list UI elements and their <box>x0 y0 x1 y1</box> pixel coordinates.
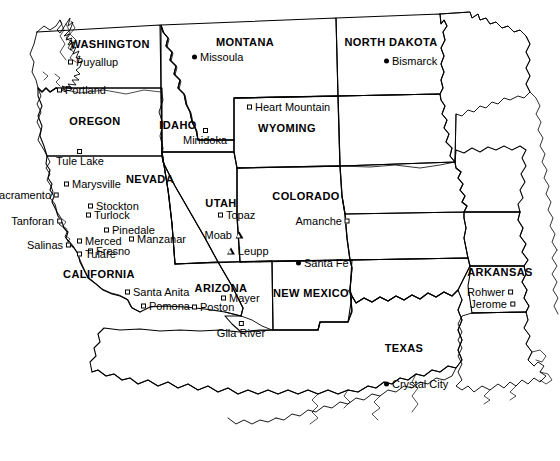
place-label-jerome: Jerome <box>470 299 507 310</box>
circle-marker-icon <box>296 261 301 266</box>
place-marker-manzanar[interactable]: Manzanar <box>129 234 186 245</box>
square-marker-icon <box>77 239 82 244</box>
state-outline-nebraska <box>340 162 467 214</box>
square-marker-icon <box>508 290 513 295</box>
circle-marker-icon <box>192 55 197 60</box>
place-label-tulare: Tulare <box>85 249 116 260</box>
place-marker-topaz[interactable]: Topaz <box>218 210 255 221</box>
square-marker-icon <box>57 88 62 93</box>
square-marker-icon <box>125 290 130 295</box>
place-marker-puyallup[interactable]: Puyallup <box>68 57 118 68</box>
place-marker-turlock[interactable]: Turlock <box>86 210 130 221</box>
state-outline-minnesota <box>440 12 530 162</box>
place-marker-portland[interactable]: Portland <box>57 85 106 96</box>
triangle-marker-icon <box>235 232 243 239</box>
map-outlines <box>0 0 560 461</box>
state-label-washington: WASHINGTON <box>70 38 150 50</box>
state-label-texas: TEXAS <box>385 342 424 354</box>
place-label-santa-anita: Santa Anita <box>133 287 189 298</box>
state-label-utah: UTAH <box>205 197 236 209</box>
state-outline-wisconsin <box>530 92 557 250</box>
place-marker-bismarck[interactable]: Bismarck <box>384 56 437 67</box>
square-marker-icon <box>345 219 350 224</box>
place-marker-santa-anita[interactable]: Santa Anita <box>125 287 189 298</box>
square-marker-icon <box>218 213 223 218</box>
state-label-oregon: OREGON <box>69 115 120 127</box>
place-marker-salinas[interactable]: Salinas <box>27 240 71 251</box>
square-marker-icon <box>68 60 73 65</box>
place-label-marysville: Marysville <box>72 179 121 190</box>
state-outline-missouri <box>464 212 528 266</box>
place-marker-pomona[interactable]: Pomona <box>141 301 190 312</box>
state-outline-iowa <box>455 146 526 212</box>
place-marker-poston[interactable]: Poston <box>192 302 234 313</box>
place-marker-sacramento[interactable]: Sacramento <box>0 190 59 201</box>
state-outline-kansas <box>345 212 468 260</box>
state-label-arkansas: ARKANSAS <box>467 266 533 278</box>
square-marker-icon <box>86 213 91 218</box>
place-label-portland: Portland <box>65 85 106 96</box>
place-label-puyallup: Puyallup <box>76 57 118 68</box>
square-marker-icon <box>192 305 197 310</box>
map-container: WASHINGTONOREGONIDAHOMONTANANORTH DAKOTA… <box>0 0 560 461</box>
place-marker-santa-fe[interactable]: Santa Fe <box>296 258 349 269</box>
square-marker-icon <box>88 204 93 209</box>
place-marker-missoula[interactable]: Missoula <box>192 52 243 63</box>
square-marker-icon <box>66 243 71 248</box>
place-marker-tanforan[interactable]: Tanforan <box>11 216 62 227</box>
place-label-santa-fe: Santa Fe <box>304 258 349 269</box>
place-marker-heart-mountain[interactable]: Heart Mountain <box>247 102 330 113</box>
state-label-nevada: NEVADA <box>126 173 174 185</box>
place-label-poston: Poston <box>200 302 234 313</box>
place-marker-leupp[interactable]: Leupp <box>227 246 269 257</box>
place-label-moab: Moab <box>204 230 232 241</box>
place-marker-rohwer[interactable]: Rohwer <box>467 287 513 298</box>
place-label-minidoka: Minidoka <box>183 135 227 146</box>
place-label-leupp: Leupp <box>238 246 269 257</box>
state-label-montana: MONTANA <box>216 36 274 48</box>
place-label-salinas: Salinas <box>27 240 63 251</box>
state-label-new-mexico: NEW MEXICO <box>273 287 349 299</box>
square-marker-icon <box>510 302 515 307</box>
state-label-north-dakota: NORTH DAKOTA <box>344 36 437 48</box>
state-label-wyoming: WYOMING <box>258 122 316 134</box>
place-marker-crystal-city[interactable]: Crystal City <box>384 379 448 390</box>
square-marker-icon <box>77 252 82 257</box>
place-marker-marysville[interactable]: Marysville <box>64 179 121 190</box>
place-label-missoula: Missoula <box>200 52 243 63</box>
place-label-topaz: Topaz <box>226 210 255 221</box>
place-label-pomona: Pomona <box>149 301 190 312</box>
place-label-tanforan: Tanforan <box>11 216 54 227</box>
circle-marker-icon <box>384 382 389 387</box>
square-marker-icon <box>54 193 59 198</box>
square-marker-icon <box>57 219 62 224</box>
square-marker-icon <box>247 105 252 110</box>
place-marker-gila-river[interactable]: Gila River <box>217 321 265 339</box>
place-marker-tulare[interactable]: Tulare <box>77 249 116 260</box>
square-marker-icon <box>104 228 109 233</box>
place-marker-jerome[interactable]: Jerome <box>470 299 515 310</box>
state-label-colorado: COLORADO <box>272 190 339 202</box>
square-marker-icon <box>78 149 83 154</box>
place-label-sacramento: Sacramento <box>0 190 51 201</box>
place-label-bismarck: Bismarck <box>392 56 437 67</box>
triangle-marker-icon <box>227 248 235 255</box>
square-marker-icon <box>238 321 243 326</box>
place-label-gila-river: Gila River <box>217 328 265 339</box>
place-marker-minidoka[interactable]: Minidoka <box>183 128 227 146</box>
place-label-amanche: Amanche <box>296 216 342 227</box>
place-marker-moab[interactable]: Moab <box>204 230 243 241</box>
square-marker-icon <box>64 182 69 187</box>
state-label-california: CALIFORNIA <box>63 268 135 280</box>
place-label-rohwer: Rohwer <box>467 287 505 298</box>
place-label-turlock: Turlock <box>94 210 130 221</box>
place-marker-tule-lake[interactable]: Tule Lake <box>56 149 104 167</box>
place-label-tule-lake: Tule Lake <box>56 156 104 167</box>
place-label-crystal-city: Crystal City <box>392 379 448 390</box>
square-marker-icon <box>203 128 208 133</box>
circle-marker-icon <box>384 59 389 64</box>
place-label-heart-mountain: Heart Mountain <box>255 102 330 113</box>
square-marker-icon <box>141 304 146 309</box>
square-marker-icon <box>129 237 134 242</box>
place-marker-amanche[interactable]: Amanche <box>296 216 350 227</box>
